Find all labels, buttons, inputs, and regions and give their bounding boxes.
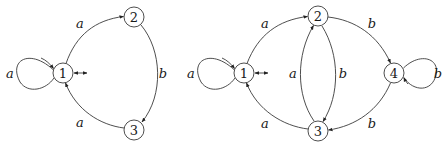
edge-2-3-b xyxy=(322,26,336,122)
svg-text:3: 3 xyxy=(314,124,322,139)
edge-label: b xyxy=(339,66,347,81)
state-4: 4 xyxy=(384,63,404,83)
state-1: 1 xyxy=(53,63,73,83)
edge-label: b xyxy=(368,116,376,131)
edge-1-2-a xyxy=(66,17,124,64)
edge-3-1-a xyxy=(247,83,309,129)
edge-label: b xyxy=(159,66,167,81)
state-2: 2 xyxy=(308,6,328,26)
state-3: 3 xyxy=(124,120,144,140)
edge-label: a xyxy=(261,16,269,31)
edge-label: b xyxy=(368,16,376,31)
edge-3-2-a xyxy=(300,26,314,122)
svg-text:1: 1 xyxy=(59,66,67,81)
state-2: 2 xyxy=(124,7,144,27)
edge-2-4-b xyxy=(328,17,391,63)
edge-label: a xyxy=(6,66,14,81)
edge-label: a xyxy=(289,66,297,81)
svg-text:4: 4 xyxy=(390,66,398,81)
edge-1-2-a xyxy=(247,17,308,64)
edge-label: b xyxy=(434,66,442,81)
automaton-right: a a b b a b b a 1 2 xyxy=(187,6,442,141)
svg-text:1: 1 xyxy=(240,66,248,81)
edge-label: a xyxy=(76,16,84,31)
edge-label: a xyxy=(187,66,195,81)
edge-3-1-a xyxy=(66,83,125,128)
edge-2-3-b xyxy=(141,25,158,122)
state-3: 3 xyxy=(308,121,328,141)
svg-text:3: 3 xyxy=(130,123,138,138)
svg-text:2: 2 xyxy=(314,9,322,24)
svg-text:2: 2 xyxy=(130,10,138,25)
automaton-left: a a b a 1 2 3 xyxy=(6,7,167,140)
edge-label: a xyxy=(76,115,84,130)
edge-label: a xyxy=(261,116,269,131)
state-1: 1 xyxy=(234,63,254,83)
edge-4-4-b xyxy=(404,59,437,88)
edge-4-3-b xyxy=(329,83,391,130)
automata-diagram: a a b a 1 2 3 a a xyxy=(0,0,448,146)
